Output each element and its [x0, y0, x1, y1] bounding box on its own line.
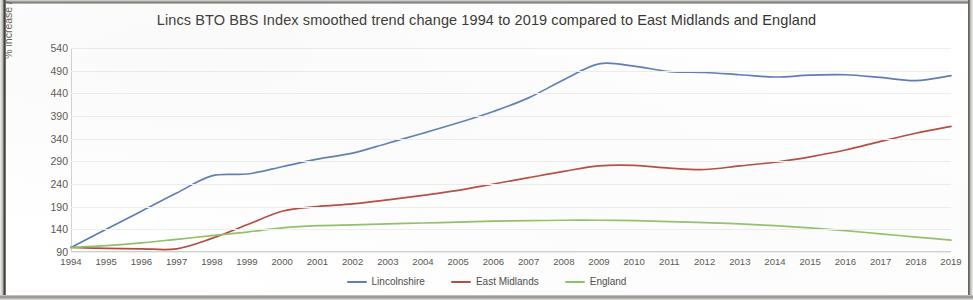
x-tick-label: 2006 [483, 256, 504, 267]
gridline [71, 48, 951, 49]
x-tick-label: 2003 [377, 256, 398, 267]
y-tick-label: 240 [24, 178, 68, 190]
y-axis-tick-labels: 90140190240290340390440490540 [22, 48, 68, 252]
x-tick-label: 2019 [940, 256, 961, 267]
gridline [71, 139, 951, 140]
x-tick-label: 2009 [588, 256, 609, 267]
x-tick-label: 2016 [835, 256, 856, 267]
gridline [71, 252, 951, 253]
x-tick-label: 2002 [342, 256, 363, 267]
gridline [71, 184, 951, 185]
y-tick-label: 340 [24, 133, 68, 145]
x-tick-label: 2007 [518, 256, 539, 267]
x-tick-label: 1994 [60, 256, 81, 267]
series-line-england [71, 220, 951, 247]
x-tick-label: 2015 [800, 256, 821, 267]
y-tick-label: 490 [24, 65, 68, 77]
series-line-east-midlands [71, 126, 951, 249]
x-tick-label: 2017 [870, 256, 891, 267]
y-axis-title: % increase / decrease since 1994 [2, 0, 16, 80]
y-tick-label: 140 [24, 223, 68, 235]
plot-area [71, 48, 951, 252]
gridline [71, 229, 951, 230]
chart-legend: LincolnshireEast MidlandsEngland [0, 276, 973, 287]
x-tick-label: 2018 [905, 256, 926, 267]
y-tick-label: 290 [24, 155, 68, 167]
x-tick-label: 2004 [412, 256, 433, 267]
x-tick-label: 2012 [694, 256, 715, 267]
legend-swatch-icon [347, 281, 367, 283]
scan-edge-top [0, 0, 973, 4]
x-axis-tick-labels: 1994199519961997199819992000200120022003… [71, 256, 951, 272]
scan-edge-bottom [0, 295, 973, 300]
chart-figure: Lincs BTO BBS Index smoothed trend chang… [0, 0, 973, 300]
y-tick-label: 440 [24, 87, 68, 99]
legend-label: East Midlands [476, 276, 539, 287]
legend-item-east-midlands[interactable]: East Midlands [451, 276, 539, 287]
legend-swatch-icon [451, 281, 471, 283]
x-tick-label: 2008 [553, 256, 574, 267]
gridline [71, 71, 951, 72]
legend-swatch-icon [565, 281, 585, 283]
scan-edge-right [968, 0, 973, 300]
legend-label: Lincolnshire [372, 276, 425, 287]
x-tick-label: 1997 [166, 256, 187, 267]
x-tick-label: 1996 [131, 256, 152, 267]
x-tick-label: 1998 [201, 256, 222, 267]
gridline [71, 93, 951, 94]
gridline [71, 161, 951, 162]
y-tick-label: 540 [24, 42, 68, 54]
gridline [71, 116, 951, 117]
x-tick-label: 1999 [236, 256, 257, 267]
chart-title: Lincs BTO BBS Index smoothed trend chang… [0, 12, 973, 28]
gridline [71, 207, 951, 208]
x-tick-label: 2005 [448, 256, 469, 267]
x-tick-label: 2014 [764, 256, 785, 267]
legend-label: England [590, 276, 627, 287]
series-lines [71, 48, 951, 252]
x-tick-label: 1995 [96, 256, 117, 267]
y-tick-label: 190 [24, 201, 68, 213]
x-tick-label: 2011 [659, 256, 680, 267]
x-tick-label: 2013 [729, 256, 750, 267]
x-tick-label: 2010 [624, 256, 645, 267]
y-tick-label: 390 [24, 110, 68, 122]
legend-item-england[interactable]: England [565, 276, 627, 287]
x-tick-label: 2001 [307, 256, 328, 267]
legend-item-lincolnshire[interactable]: Lincolnshire [347, 276, 425, 287]
x-tick-label: 2000 [272, 256, 293, 267]
